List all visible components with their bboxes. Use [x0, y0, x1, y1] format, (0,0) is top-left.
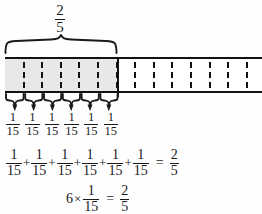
multiplication-sign: × [73, 191, 83, 207]
bar-cell [172, 59, 191, 91]
product-multiplier: 6 [66, 191, 73, 207]
bar-cell [191, 59, 210, 91]
shaded-region-boundary [117, 57, 119, 97]
sum-result-numerator: 2 [170, 148, 179, 162]
bar-cell [135, 59, 154, 91]
unit-fraction-denominator: 15 [84, 124, 99, 138]
sum-term-numerator: 1 [35, 148, 44, 162]
sum-term-denominator: 15 [82, 163, 98, 178]
sum-term: 1 15 [31, 148, 47, 178]
bar-cell [247, 59, 262, 91]
plus-sign: + [73, 155, 82, 171]
fraction-bar-diagram: 2 5 [0, 0, 262, 214]
unit-fraction-numerator: 1 [9, 111, 17, 124]
product-result-numerator: 2 [120, 184, 129, 198]
bar-cell [5, 59, 24, 91]
unit-fraction: 1 15 [45, 111, 60, 138]
unit-label-slot: 1 15 [62, 111, 82, 138]
unit-fraction-numerator: 1 [28, 111, 36, 124]
top-fraction: 2 5 [55, 3, 65, 35]
top-fraction-label: 2 5 [0, 3, 120, 35]
sum-term: 1 15 [82, 148, 98, 178]
unit-fraction: 1 15 [84, 111, 99, 138]
plus-sign: + [98, 155, 107, 171]
unit-label-slot: 1 15 [23, 111, 43, 138]
sum-term-numerator: 1 [86, 148, 95, 162]
sum-term-denominator: 15 [57, 163, 73, 178]
unit-fraction-denominator: 15 [6, 124, 21, 138]
plus-sign: + [22, 155, 31, 171]
unit-fraction: 1 15 [64, 111, 79, 138]
sum-term-numerator: 1 [111, 148, 120, 162]
plus-sign: + [47, 155, 56, 171]
sum-term: 1 15 [6, 148, 22, 178]
unit-fraction-numerator: 1 [87, 111, 95, 124]
unit-fraction-denominator: 15 [45, 124, 60, 138]
bar-cell [24, 59, 43, 91]
unit-fraction: 1 15 [104, 111, 119, 138]
product-result: 2 5 [120, 184, 129, 214]
sum-term: 1 15 [57, 148, 73, 178]
unit-fraction-denominator: 15 [64, 124, 79, 138]
unit-label-slot: 1 15 [42, 111, 62, 138]
sum-term: 1 15 [107, 148, 123, 178]
equals-sign: = [149, 155, 170, 171]
unit-fraction: 1 15 [25, 111, 40, 138]
equals-sign: = [99, 191, 120, 207]
sum-result: 2 5 [170, 148, 179, 178]
sum-term: 1 15 [133, 148, 149, 178]
sum-term-denominator: 15 [133, 163, 149, 178]
sum-equation: 1 15 + 1 15 + 1 15 + 1 15 + 1 15 + 1 15 … [6, 148, 179, 178]
bar-strip [5, 57, 262, 93]
bar-cell [210, 59, 229, 91]
sum-result-denominator: 5 [170, 163, 179, 178]
unit-label-slot: 1 15 [3, 111, 23, 138]
unit-label-slot: 1 15 [101, 111, 121, 138]
bar-model [5, 57, 262, 93]
bar-cell [228, 59, 247, 91]
unit-fraction: 1 15 [6, 111, 21, 138]
product-equation: 6 × 1 15 = 2 5 [66, 184, 129, 214]
sum-term-numerator: 1 [10, 148, 19, 162]
product-factor-denominator: 15 [83, 199, 99, 214]
product-result-denominator: 5 [120, 199, 129, 214]
product-factor: 1 15 [83, 184, 99, 214]
bar-cell [98, 59, 117, 91]
sum-term-numerator: 1 [136, 148, 145, 162]
unit-fraction-labels: 1 15 1 15 1 15 1 15 1 15 [3, 111, 121, 138]
bar-cell [117, 59, 136, 91]
unit-fraction-denominator: 15 [104, 124, 119, 138]
sum-term-denominator: 15 [31, 163, 47, 178]
sum-term-denominator: 15 [107, 163, 123, 178]
bar-cell [79, 59, 98, 91]
bar-cell [42, 59, 61, 91]
unit-fraction-numerator: 1 [48, 111, 56, 124]
sum-term-numerator: 1 [60, 148, 69, 162]
bar-cell [61, 59, 80, 91]
top-fraction-numerator: 2 [55, 3, 65, 18]
large-brace-icon [4, 34, 118, 54]
plus-sign: + [123, 155, 132, 171]
unit-fraction-denominator: 15 [25, 124, 40, 138]
unit-label-slot: 1 15 [81, 111, 101, 138]
unit-braces-icon [5, 93, 120, 112]
sum-term-denominator: 15 [6, 163, 22, 178]
top-fraction-denominator: 5 [55, 19, 65, 35]
unit-fraction-numerator: 1 [67, 111, 75, 124]
bar-cell [154, 59, 173, 91]
unit-fraction-numerator: 1 [107, 111, 115, 124]
product-factor-numerator: 1 [87, 184, 96, 198]
